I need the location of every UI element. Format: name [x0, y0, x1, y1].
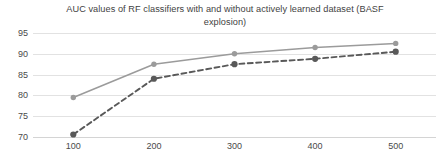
x-tick-label-200: 200: [146, 141, 161, 151]
gridline-70: [33, 137, 436, 138]
data-point-s0-x100: [71, 95, 76, 100]
plot-area: 959085807570 100200300400500: [33, 33, 436, 137]
x-tick-label-300: 300: [227, 141, 242, 151]
chart-title-line-2: explosion): [204, 17, 246, 27]
x-tick-label-400: 400: [308, 141, 323, 151]
x-tick-label-100: 100: [66, 141, 81, 151]
data-point-s1-x100: [70, 131, 76, 137]
data-point-s0-x300: [232, 51, 237, 56]
data-point-s1-x400: [312, 56, 318, 62]
data-point-s1-x200: [151, 76, 157, 82]
data-point-s1-x300: [231, 61, 237, 67]
data-point-s0-x400: [312, 45, 317, 50]
data-point-s0-x500: [393, 41, 398, 46]
y-tick-label-95: 95: [18, 28, 28, 38]
chart-title: AUC values of RF classifiers with and wi…: [52, 3, 398, 28]
y-tick-label-80: 80: [18, 90, 28, 100]
x-tick-label-500: 500: [388, 141, 403, 151]
y-tick-label-75: 75: [18, 111, 28, 121]
chart-title-line-1: AUC values of RF classifiers with and wi…: [66, 4, 383, 14]
series-1: [70, 49, 399, 138]
data-point-s1-x500: [393, 49, 399, 55]
series-0: [71, 41, 399, 100]
series-plot: [33, 33, 436, 137]
chart-container: AUC values of RF classifiers with and wi…: [0, 0, 444, 162]
y-tick-label-90: 90: [18, 49, 28, 59]
y-tick-label-85: 85: [18, 70, 28, 80]
y-tick-label-70: 70: [18, 132, 28, 142]
data-point-s0-x200: [151, 62, 156, 67]
